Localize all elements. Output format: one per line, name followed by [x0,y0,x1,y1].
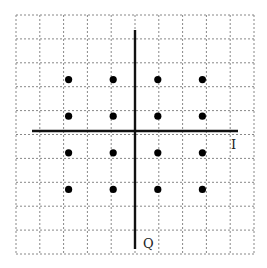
constellation-point [199,113,206,120]
constellation-point [110,113,117,120]
constellation-point [154,113,161,120]
constellation-point [65,76,72,83]
constellation-diagram: I Q [0,0,267,268]
constellation-point [65,113,72,120]
i-axis-label: I [231,137,236,152]
constellation-point [199,186,206,193]
constellation-point [154,186,161,193]
constellation-point [199,76,206,83]
constellation-point [154,149,161,156]
constellation-point [199,149,206,156]
constellation-point [110,149,117,156]
q-axis-label: Q [143,236,154,251]
constellation-point [110,76,117,83]
constellation-point [110,186,117,193]
constellation-point [65,186,72,193]
constellation-point [65,149,72,156]
constellation-point [154,76,161,83]
